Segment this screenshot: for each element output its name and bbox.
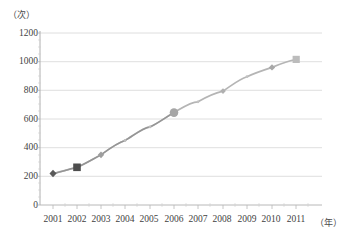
marker-2009 — [246, 75, 249, 78]
gridlines — [40, 33, 322, 176]
chart-canvas — [0, 0, 349, 237]
line-chart: （次） （年） 1200 1000 800 600 400 200 0 2001… — [0, 0, 349, 237]
marker-2006 — [170, 108, 179, 117]
marker-2005 — [149, 126, 152, 129]
y-axis — [36, 31, 41, 205]
marker-2007 — [197, 100, 200, 103]
marker-2004 — [124, 139, 127, 142]
x-axis — [40, 203, 322, 209]
marker-2011 — [293, 56, 300, 63]
data-markers — [50, 56, 300, 177]
marker-2002 — [73, 164, 81, 172]
marker-2010 — [269, 64, 275, 70]
